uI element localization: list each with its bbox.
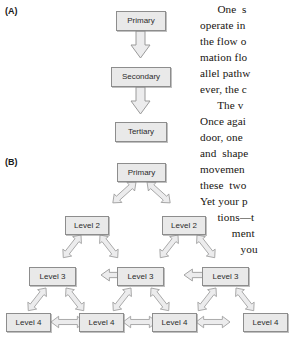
- node-label: Level 2: [171, 222, 197, 230]
- arrow-primary-to-level2-left: [109, 178, 140, 207]
- body-text-line: Once agai: [200, 115, 246, 127]
- body-text-line: the flow o: [200, 35, 246, 47]
- node-tertiary-a[interactable]: Tertiary: [115, 122, 167, 142]
- node-label: Level 4: [89, 319, 115, 327]
- body-text-line: allel pathw: [200, 67, 251, 79]
- body-text-column: One s operate in the flow o mation flo a…: [200, 0, 291, 341]
- body-text-line: Yet your p: [200, 195, 248, 207]
- panel-label-a: (A): [5, 6, 18, 16]
- body-text-line: One s: [200, 3, 247, 15]
- arrow-primary-to-level2-right: [143, 178, 174, 207]
- arrow-level2-right-to-level3-mid: [156, 232, 183, 262]
- node-label: Level 2: [74, 222, 100, 230]
- arrow-primary-to-secondary: [131, 31, 150, 58]
- node-label: Primary: [127, 17, 155, 25]
- arrow-level2-left-to-level3-mid: [96, 232, 123, 262]
- body-text-line: operate in: [200, 19, 245, 31]
- arrow-level3-left-to-level4-1: [24, 285, 51, 315]
- body-text-line: tions—t: [200, 211, 254, 223]
- body-text-line: ment: [200, 227, 255, 239]
- node-primary-a[interactable]: Primary: [116, 11, 166, 31]
- body-text-line: you: [200, 243, 258, 255]
- panel-label-b: (B): [5, 157, 18, 167]
- node-level4-1[interactable]: Level 4: [6, 313, 51, 332]
- node-primary-b[interactable]: Primary: [117, 163, 166, 182]
- body-text-line: The v: [200, 99, 243, 111]
- body-text-line: mation flo: [200, 51, 247, 63]
- body-text-line: movemen: [200, 163, 245, 175]
- arrow-level3-mid-to-level4-3: [147, 285, 174, 315]
- node-secondary-a[interactable]: Secondary: [111, 67, 171, 87]
- node-label: Level 3: [40, 273, 66, 281]
- node-label: Primary: [128, 169, 156, 177]
- body-text-line: and shape: [200, 147, 248, 159]
- node-level3-left[interactable]: Level 3: [29, 267, 76, 286]
- arrow-level3-mid-to-level4-2: [109, 285, 136, 315]
- body-text-line: these two: [200, 179, 246, 191]
- arrow-secondary-to-tertiary: [131, 87, 150, 114]
- node-level3-mid[interactable]: Level 3: [117, 267, 164, 286]
- arrow-level3-left-to-level4-2: [62, 285, 89, 315]
- node-label: Level 3: [128, 273, 154, 281]
- node-level4-2[interactable]: Level 4: [79, 313, 124, 332]
- node-label: Secondary: [122, 73, 160, 81]
- node-level4-3[interactable]: Level 4: [152, 313, 197, 332]
- node-label: Level 4: [16, 319, 42, 327]
- node-label: Level 4: [162, 319, 188, 327]
- node-label: Tertiary: [128, 128, 154, 136]
- body-text-line: door, one: [200, 131, 243, 143]
- node-level2-left[interactable]: Level 2: [65, 216, 109, 235]
- body-text-line: ever, the c: [200, 83, 247, 95]
- arrow-level2-left-to-level3-left: [59, 232, 86, 262]
